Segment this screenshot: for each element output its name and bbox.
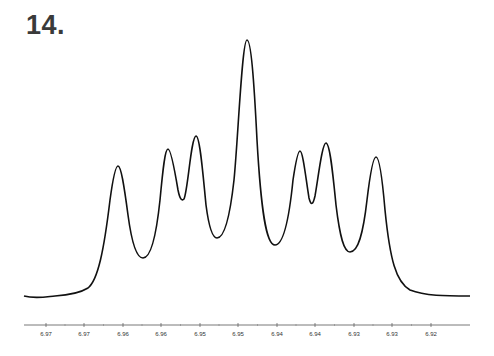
tick-label: 6.93 — [348, 331, 360, 337]
spectrum-trace — [24, 40, 470, 298]
tick-label: 6.97 — [78, 331, 90, 337]
tick-label: 6.95 — [232, 331, 244, 337]
tick-label: 6.94 — [271, 331, 283, 337]
tick-label: 6.96 — [117, 331, 129, 337]
tick-label: 6.94 — [309, 331, 321, 337]
tick-label: 6.96 — [155, 331, 167, 337]
tick-label: 6.97 — [40, 331, 52, 337]
tick-label: 6.93 — [386, 331, 398, 337]
nmr-spectrum-chart: 6.976.976.966.966.956.956.946.946.936.93… — [0, 0, 494, 356]
tick-label: 6.95 — [194, 331, 206, 337]
tick-label: 6.92 — [425, 331, 437, 337]
